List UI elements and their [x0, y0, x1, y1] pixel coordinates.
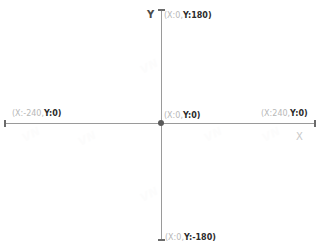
coordinate-label-top: (X:0,Y:180) — [164, 11, 212, 21]
watermark: VN — [20, 124, 43, 144]
coordinate-label-top-y: Y:180) — [183, 11, 212, 20]
coordinate-label-bottom: (X:0,Y:-180) — [165, 233, 216, 243]
x-axis-left-cap-icon — [4, 120, 6, 127]
coordinate-label-right: (X:240,Y:0) — [261, 109, 308, 119]
watermark: VN — [202, 124, 225, 144]
coordinate-label-left-x: (X:-240, — [12, 109, 44, 118]
coordinate-label-origin: (X:0,Y:0) — [164, 111, 200, 121]
coordinate-label-origin-y: Y:0) — [183, 111, 201, 120]
coordinate-label-origin-x: (X:0, — [164, 111, 183, 120]
coordinate-label-right-x: (X:240, — [261, 109, 290, 118]
coordinate-label-left-y: Y:0) — [44, 109, 62, 118]
watermark: VN — [260, 124, 283, 144]
x-axis-right-cap-icon — [314, 120, 316, 127]
coordinate-label-bottom-y: Y:-180) — [184, 233, 216, 242]
coordinate-label-right-y: Y:0) — [290, 109, 308, 118]
watermark: VN — [138, 56, 161, 76]
watermark: VN — [138, 184, 161, 204]
coordinate-label-left: (X:-240,Y:0) — [12, 109, 62, 119]
y-axis-label: Y — [147, 9, 154, 20]
coordinate-diagram: VN VN VN VN VN VN Y X (X:0,Y:180) (X:0,Y… — [0, 0, 320, 250]
coordinate-label-bottom-x: (X:0, — [165, 233, 184, 242]
x-axis-label: X — [296, 131, 303, 142]
coordinate-label-top-x: (X:0, — [164, 11, 183, 20]
watermark: VN — [76, 128, 99, 148]
y-axis-bottom-cap-icon — [158, 239, 165, 241]
